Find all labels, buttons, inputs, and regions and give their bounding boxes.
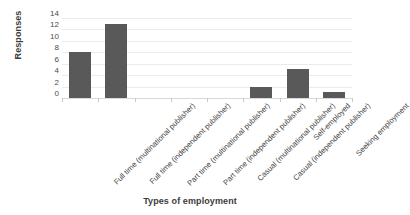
bar-slot	[98, 18, 134, 98]
bar-slot	[207, 18, 243, 98]
y-tick-label: 4	[40, 67, 59, 75]
x-tick-label-text: Full time (independent publisher)	[149, 102, 233, 186]
y-tick-label: 0	[40, 90, 59, 98]
bar-series	[62, 18, 352, 98]
x-axis-title: Types of employment	[0, 196, 380, 206]
bar[interactable]	[105, 24, 127, 98]
bar[interactable]	[69, 52, 91, 98]
y-tick-label: 14	[40, 10, 59, 18]
y-tick-label: 2	[40, 79, 59, 87]
bar-slot	[171, 18, 207, 98]
y-tick-label: 10	[40, 33, 59, 41]
x-axis-tick-labels: Full time (multinational publisher)Full …	[62, 102, 352, 188]
y-axis-tick-labels: 02468101214	[40, 14, 59, 98]
bar-slot	[62, 18, 98, 98]
plot-area	[62, 18, 352, 98]
y-tick-label: 12	[40, 21, 59, 29]
bar-slot	[243, 18, 279, 98]
x-tick-label: Full time (independent publisher)	[149, 102, 233, 186]
y-tick-label: 8	[40, 44, 59, 52]
bar[interactable]	[250, 87, 272, 98]
bar-slot	[316, 18, 352, 98]
y-axis-title: Responses	[13, 0, 23, 75]
bar-slot	[135, 18, 171, 98]
bar[interactable]	[287, 69, 309, 98]
bar-slot	[280, 18, 316, 98]
x-tick-mark	[352, 98, 353, 102]
y-tick-label: 6	[40, 56, 59, 64]
